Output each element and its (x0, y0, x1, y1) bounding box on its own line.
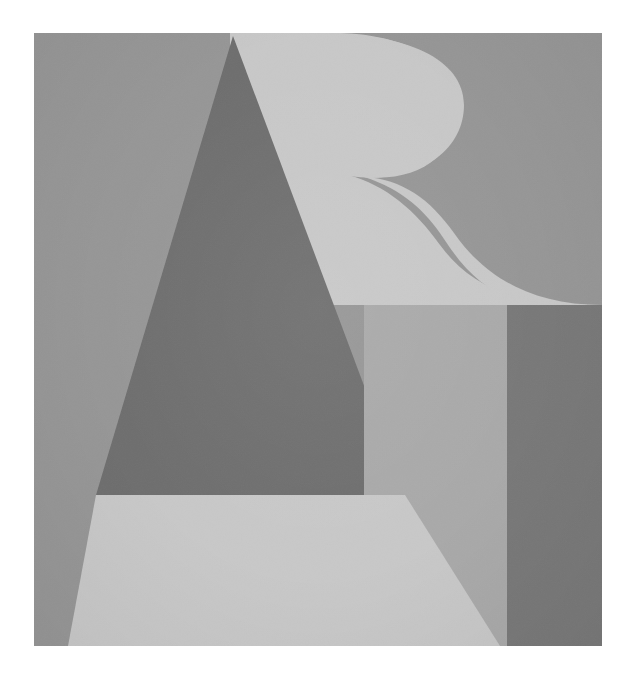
artwork-canvas (0, 0, 637, 686)
paper-grain-texture (34, 33, 602, 646)
artwork-plate (34, 33, 602, 646)
composition-svg (34, 33, 602, 646)
